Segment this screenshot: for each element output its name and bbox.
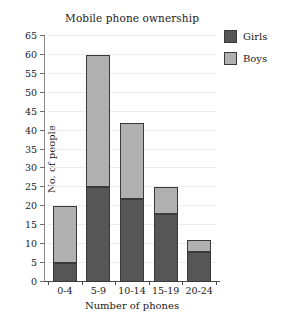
x-axis-tick (182, 281, 183, 285)
chart-title: Mobile phone ownership (44, 12, 220, 24)
bar-segment-girls[interactable] (154, 214, 178, 282)
y-axis-tick-label: 25 (25, 181, 37, 192)
bar-segment-boys[interactable] (53, 206, 77, 263)
bar-segment-boys[interactable] (187, 240, 211, 251)
gridline (48, 73, 216, 74)
bar-segment-girls[interactable] (53, 263, 77, 282)
legend-label: Girls (243, 31, 267, 42)
y-axis-tick-label: 0 (31, 276, 37, 287)
y-axis-tick (40, 205, 45, 206)
bar-group[interactable] (53, 206, 77, 281)
legend-item-boys[interactable]: Boys (224, 52, 267, 65)
y-axis-tick (40, 35, 45, 36)
gridline (48, 92, 216, 93)
bar-group[interactable] (187, 240, 211, 281)
x-axis-tick-label: 5-9 (91, 285, 106, 296)
y-axis-tick-label: 40 (25, 124, 37, 135)
y-axis-tick (40, 54, 45, 55)
x-axis-tick-label: 0-4 (57, 285, 72, 296)
y-axis-tick (40, 281, 45, 282)
y-axis-tick-label: 30 (25, 162, 37, 173)
y-axis-tick (40, 149, 45, 150)
x-axis-tick (82, 281, 83, 285)
y-axis-tick (40, 73, 45, 74)
bar-segment-boys[interactable] (86, 55, 110, 187)
chart-legend: GirlsBoys (224, 30, 267, 65)
y-axis-tick-label: 10 (25, 238, 37, 249)
y-axis-tick (40, 243, 45, 244)
bar-segment-boys[interactable] (120, 123, 144, 199)
legend-label: Boys (243, 53, 267, 64)
y-axis-tick (40, 167, 45, 168)
x-axis-tick-label: 15-19 (152, 285, 179, 296)
legend-item-girls[interactable]: Girls (224, 30, 267, 43)
y-axis-tick-label: 35 (25, 143, 37, 154)
x-axis-title: Number of phones (44, 300, 220, 311)
y-axis-tick-label: 50 (25, 86, 37, 97)
y-axis-tick-label: 65 (25, 30, 37, 41)
x-axis-tick (149, 281, 150, 285)
x-axis-tick (115, 281, 116, 285)
y-axis-tick (40, 186, 45, 187)
y-axis-tick-label: 5 (31, 257, 37, 268)
y-axis-tick-label: 15 (25, 219, 37, 230)
y-axis-tick (40, 111, 45, 112)
bar-chart: Mobile phone ownership No. of people 051… (0, 0, 295, 323)
y-axis-tick-label: 20 (25, 200, 37, 211)
x-axis-tick-label: 20-24 (185, 285, 212, 296)
y-axis-tick (40, 262, 45, 263)
gridline (48, 35, 216, 36)
legend-swatch-icon (224, 30, 237, 43)
y-axis-tick (40, 224, 45, 225)
x-axis-tick (48, 281, 49, 285)
gridline (48, 111, 216, 112)
bar-group[interactable] (154, 187, 178, 281)
bar-segment-boys[interactable] (154, 187, 178, 213)
bar-group[interactable] (86, 55, 110, 281)
y-axis-tick-label: 45 (25, 105, 37, 116)
bar-group[interactable] (120, 123, 144, 281)
y-axis-title: No. of people (46, 125, 57, 193)
bar-segment-girls[interactable] (187, 252, 211, 282)
y-axis-tick-label: 55 (25, 67, 37, 78)
gridline (48, 54, 216, 55)
y-axis-tick (40, 92, 45, 93)
x-axis-tick-label: 10-14 (118, 285, 145, 296)
y-axis-tick (40, 130, 45, 131)
x-axis-tick (216, 281, 217, 285)
bar-segment-girls[interactable] (86, 187, 110, 282)
bar-segment-girls[interactable] (120, 199, 144, 282)
y-axis-tick-label: 60 (25, 48, 37, 59)
legend-swatch-icon (224, 52, 237, 65)
plot-area: No. of people 05101520253035404550556065… (48, 35, 216, 281)
